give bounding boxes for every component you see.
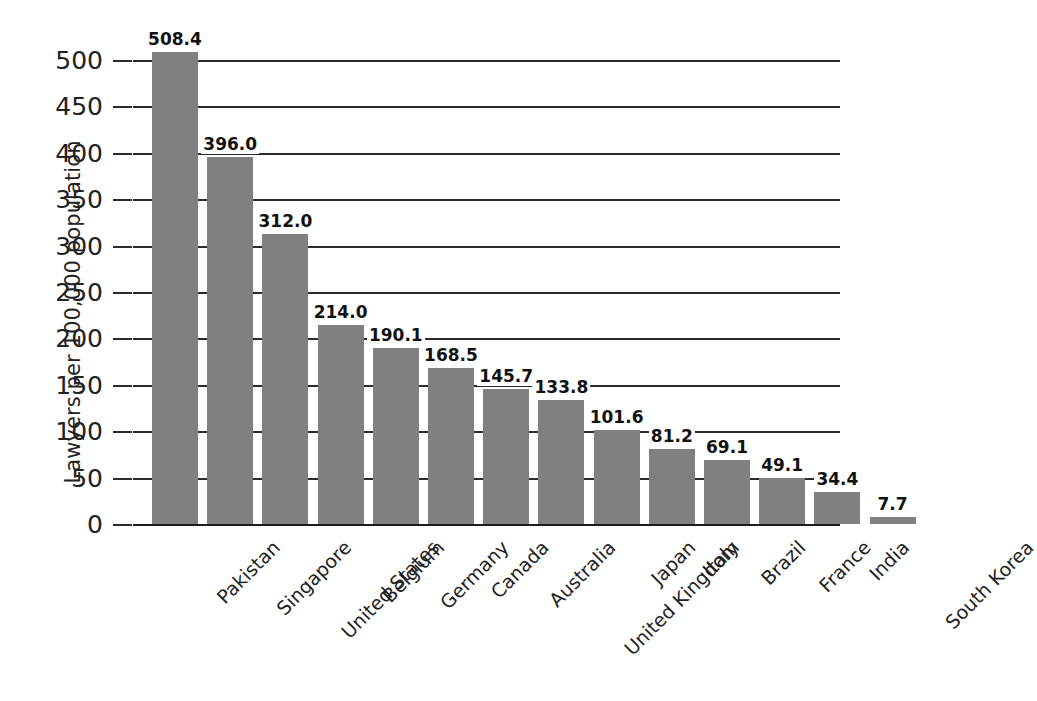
x-axis-tick-label: Australia [545, 536, 620, 611]
bar-group[interactable]: 312.0 [262, 60, 308, 524]
y-axis-tick: 500 [113, 60, 132, 62]
bar-group[interactable]: 34.4 [814, 60, 860, 524]
bar-value-label: 168.5 [422, 345, 480, 365]
bar-group[interactable]: 81.2 [649, 60, 695, 524]
y-axis-title: Lawyers per 100,000 population [61, 112, 85, 512]
bar-series: 508.4396.0312.0214.0190.1168.5145.7133.8… [133, 60, 840, 524]
bar-group[interactable]: 508.4 [152, 60, 198, 524]
y-axis-tick: 300 [113, 246, 132, 248]
bar[interactable] [318, 325, 364, 524]
y-axis-tick: 450 [113, 106, 132, 108]
bar[interactable] [759, 478, 805, 524]
bar[interactable] [814, 492, 860, 524]
y-axis-tick-label: 400 [55, 140, 103, 168]
bar[interactable] [649, 449, 695, 524]
bar[interactable] [207, 157, 253, 524]
x-axis-tick-label: Brazil [757, 536, 810, 589]
bar-value-label: 101.6 [588, 407, 646, 427]
bar-group[interactable]: 133.8 [538, 60, 584, 524]
bar[interactable] [152, 52, 198, 524]
y-axis-tick-label: 100 [55, 418, 103, 446]
bar-group[interactable]: 168.5 [428, 60, 474, 524]
x-axis-tick-label: South Korea [940, 536, 1037, 633]
bar-group[interactable]: 214.0 [318, 60, 364, 524]
y-axis-tick-label: 0 [87, 511, 103, 539]
bar[interactable] [870, 517, 916, 524]
bar-value-label: 145.7 [477, 366, 535, 386]
bar-value-label: 214.0 [312, 302, 370, 322]
bar-value-label: 49.1 [759, 455, 805, 475]
x-axis-tick-label: India [865, 536, 914, 585]
y-axis-tick: 0 [113, 524, 132, 526]
bar-value-label: 396.0 [201, 134, 259, 154]
y-axis-tick: 350 [113, 199, 132, 201]
bar-group[interactable]: 7.7 [870, 60, 916, 524]
bar-group[interactable]: 145.7 [483, 60, 529, 524]
y-axis-tick: 50 [113, 478, 132, 480]
y-axis-tick: 150 [113, 385, 132, 387]
bar[interactable] [373, 348, 419, 524]
bar-group[interactable]: 101.6 [594, 60, 640, 524]
y-axis-tick: 100 [113, 431, 132, 433]
y-axis-tick-label: 500 [55, 47, 103, 75]
bar-group[interactable]: 49.1 [759, 60, 805, 524]
bar-group[interactable]: 190.1 [373, 60, 419, 524]
y-axis-tick: 250 [113, 292, 132, 294]
y-axis-tick-label: 50 [71, 465, 103, 493]
y-axis-tick: 200 [113, 338, 132, 340]
bar[interactable] [594, 430, 640, 524]
bar[interactable] [704, 460, 750, 524]
bar-group[interactable]: 396.0 [207, 60, 253, 524]
bar-value-label: 508.4 [146, 29, 204, 49]
bar-group[interactable]: 69.1 [704, 60, 750, 524]
bar-value-label: 312.0 [257, 211, 315, 231]
bar-value-label: 69.1 [704, 437, 750, 457]
x-axis-tick-label: Pakistan [212, 536, 284, 608]
y-axis-tick-label: 200 [55, 325, 103, 353]
bar[interactable] [483, 389, 529, 524]
y-axis-tick-label: 250 [55, 279, 103, 307]
bar-value-label: 34.4 [814, 469, 860, 489]
x-axis-tick-label: Singapore [272, 536, 355, 619]
bar-value-label: 81.2 [649, 426, 695, 446]
bar[interactable] [538, 400, 584, 524]
y-axis-tick-label: 450 [55, 93, 103, 121]
y-axis-tick-label: 300 [55, 233, 103, 261]
y-axis-tick: 400 [113, 153, 132, 155]
bar-value-label: 190.1 [367, 325, 425, 345]
x-axis-tick-labels: PakistanSingaporeUnited StatesBelgiumGer… [133, 524, 840, 701]
y-axis-tick-label: 350 [55, 186, 103, 214]
bar[interactable] [262, 234, 308, 524]
bar[interactable] [428, 368, 474, 524]
bar-value-label: 133.8 [533, 377, 591, 397]
y-axis-tick-label: 150 [55, 372, 103, 400]
plot-area: 050100150200250300350400450500 508.4396.… [133, 60, 840, 524]
bar-value-label: 7.7 [876, 494, 910, 514]
